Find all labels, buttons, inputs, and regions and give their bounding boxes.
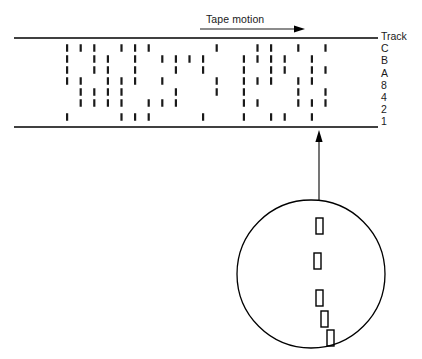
flux-mark: [297, 88, 299, 96]
flux-mark: [80, 44, 82, 52]
flux-mark: [107, 66, 109, 74]
flux-mark: [297, 99, 299, 107]
flux-mark: [270, 44, 272, 52]
flux-mark: [107, 88, 109, 96]
flux-mark: [324, 66, 326, 74]
flux-mark: [270, 113, 272, 121]
flux-mark: [270, 77, 272, 85]
flux-mark: [202, 66, 204, 74]
flux-mark: [243, 113, 245, 121]
tape-track-diagram: Tape motion Track C B A 8 4 2 1: [0, 0, 422, 359]
flux-mark: [297, 44, 299, 52]
flux-mark: [80, 99, 82, 107]
track-label-b: B: [381, 54, 407, 66]
flux-mark: [202, 55, 204, 63]
flux-mark: [256, 44, 258, 52]
magnified-flux-mark: [316, 218, 323, 234]
flux-mark: [216, 88, 218, 96]
flux-mark: [161, 55, 163, 63]
flux-mark: [311, 113, 313, 121]
flux-mark: [66, 55, 68, 63]
track-header-label: Track: [381, 30, 407, 42]
flux-mark: [148, 44, 150, 52]
flux-mark: [175, 66, 177, 74]
diagram-canvas: [0, 0, 422, 359]
magnified-flux-mark: [314, 253, 321, 269]
flux-mark: [120, 113, 122, 121]
flux-mark: [107, 55, 109, 63]
flux-mark: [284, 113, 286, 121]
flux-mark: [148, 99, 150, 107]
flux-mark: [120, 99, 122, 107]
motion-arrow: [200, 25, 305, 32]
flux-mark: [256, 55, 258, 63]
magnified-flux-mark: [316, 290, 323, 306]
flux-mark: [243, 99, 245, 107]
flux-mark: [134, 66, 136, 74]
flux-mark: [120, 88, 122, 96]
flux-mark: [175, 88, 177, 96]
flux-mark: [256, 99, 258, 107]
flux-mark: [311, 99, 313, 107]
flux-mark: [243, 77, 245, 85]
track-label-1: 1: [381, 115, 407, 127]
callout-leader: [315, 130, 322, 200]
flux-mark: [311, 55, 313, 63]
flux-mark: [311, 77, 313, 85]
track-label-c: C: [381, 42, 407, 54]
tape-band: [14, 38, 378, 127]
flux-mark: [80, 77, 82, 85]
flux-mark: [80, 88, 82, 96]
flux-mark: [284, 66, 286, 74]
flux-mark: [93, 44, 95, 52]
track-label-2: 2: [381, 103, 407, 115]
flux-mark: [324, 88, 326, 96]
flux-mark: [216, 44, 218, 52]
flux-mark: [270, 66, 272, 74]
flux-mark: [216, 77, 218, 85]
flux-mark: [148, 113, 150, 121]
flux-mark: [284, 55, 286, 63]
flux-mark: [297, 77, 299, 85]
flux-mark-field: [66, 44, 327, 121]
flux-mark: [66, 44, 68, 52]
flux-mark: [107, 77, 109, 85]
flux-mark: [107, 99, 109, 107]
flux-mark: [243, 55, 245, 63]
flux-mark: [120, 44, 122, 52]
flux-mark: [175, 55, 177, 63]
flux-mark: [93, 55, 95, 63]
flux-mark: [270, 55, 272, 63]
track-label-column: Track C B A 8 4 2 1: [381, 30, 407, 128]
magnified-flux-mark: [321, 311, 328, 327]
flux-mark: [134, 113, 136, 121]
flux-mark: [243, 66, 245, 74]
flux-mark: [66, 66, 68, 74]
magnified-mark-group: [314, 218, 334, 346]
flux-mark: [120, 77, 122, 85]
flux-mark: [324, 99, 326, 107]
flux-mark: [66, 77, 68, 85]
flux-mark: [175, 99, 177, 107]
flux-mark: [134, 55, 136, 63]
flux-mark: [134, 77, 136, 85]
flux-mark: [256, 77, 258, 85]
flux-mark: [188, 55, 190, 63]
flux-mark: [324, 44, 326, 52]
flux-mark: [161, 77, 163, 85]
flux-mark: [161, 99, 163, 107]
flux-mark: [134, 44, 136, 52]
flux-mark: [93, 99, 95, 107]
flux-mark: [66, 113, 68, 121]
magnified-flux-mark: [327, 330, 334, 346]
track-label-4: 4: [381, 91, 407, 103]
track-label-8: 8: [381, 79, 407, 91]
flux-mark: [311, 66, 313, 74]
flux-mark: [202, 113, 204, 121]
flux-mark: [243, 88, 245, 96]
flux-mark: [93, 66, 95, 74]
magnifier-circle: [237, 200, 385, 348]
track-label-a: A: [381, 67, 407, 79]
flux-mark: [93, 88, 95, 96]
